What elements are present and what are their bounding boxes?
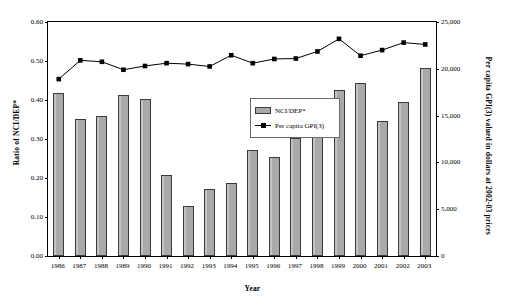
- line-marker: [337, 37, 342, 42]
- y-right-tickmark: [436, 162, 439, 163]
- plot-area: 0.000.100.200.300.400.500.60 05,00010,00…: [47, 21, 437, 257]
- line-square-swatch-icon: [255, 122, 271, 129]
- x-tickmark: [253, 256, 254, 259]
- y-left-tick-label: 0.20: [31, 174, 43, 182]
- line-marker: [186, 62, 191, 67]
- line-marker: [294, 56, 299, 61]
- y-right-tickmark: [436, 116, 439, 117]
- y-left-tick-label: 0.40: [31, 96, 43, 104]
- line-marker: [272, 57, 277, 62]
- x-tickmark: [274, 256, 275, 259]
- y-axis-right-title: Per capita GPI(3) valued in dollars at 2…: [484, 57, 493, 189]
- x-tickmark: [404, 256, 405, 259]
- y-right-tick-label: 15,000: [441, 112, 460, 120]
- x-tickmark: [382, 256, 383, 259]
- x-axis-title: Year: [0, 284, 505, 293]
- y-right-tickmark: [436, 22, 439, 23]
- x-tick-label: 2002: [396, 262, 410, 270]
- y-left-tickmark: [45, 256, 48, 257]
- y-left-tick-label: 0.50: [31, 57, 43, 65]
- x-tick-label: 1991: [159, 262, 173, 270]
- y-left-tick-label: 0.30: [31, 135, 43, 143]
- line-marker: [164, 61, 169, 66]
- y-right-tickmark: [436, 69, 439, 70]
- y-left-tick-label: 0.60: [31, 18, 43, 26]
- line-marker: [380, 48, 385, 53]
- x-tick-label: 1997: [288, 262, 302, 270]
- x-tickmark: [102, 256, 103, 259]
- y-right-tick-label: 0: [441, 252, 445, 260]
- y-right-tick-label: 20,000: [441, 65, 460, 73]
- line-marker: [315, 49, 320, 54]
- line-marker: [423, 42, 428, 47]
- x-tick-label: 1986: [51, 262, 65, 270]
- line-marker: [78, 58, 83, 63]
- x-tickmark: [123, 256, 124, 259]
- legend-item-bar: NCI/DEP*: [255, 103, 335, 118]
- x-tick-label: 1996: [266, 262, 280, 270]
- x-tickmark: [145, 256, 146, 259]
- line-marker: [401, 40, 406, 45]
- y-left-tick-label: 0.00: [31, 252, 43, 260]
- y-right-tick-label: 10,000: [441, 158, 460, 166]
- y-right-tick-label: 5,000: [441, 205, 457, 213]
- x-tick-label: 1988: [94, 262, 108, 270]
- x-tick-label: 1990: [137, 262, 151, 270]
- legend-item-line: Per capita GPI(3): [255, 118, 335, 133]
- line-marker: [207, 64, 212, 69]
- x-tickmark: [339, 256, 340, 259]
- x-tick-label: 1999: [331, 262, 345, 270]
- x-tick-label: 2003: [417, 262, 431, 270]
- legend-label-bar: NCI/DEP*: [275, 107, 306, 115]
- y-right-tickmark: [436, 209, 439, 210]
- y-left-tick-label: 0.10: [31, 213, 43, 221]
- x-tickmark: [317, 256, 318, 259]
- line-marker: [229, 53, 234, 58]
- y-axis-left-title: Ratio of NCI/DEP*: [12, 73, 21, 193]
- x-tick-label: 1992: [180, 262, 194, 270]
- chart-legend: NCI/DEP* Per capita GPI(3): [250, 98, 340, 138]
- x-tickmark: [210, 256, 211, 259]
- x-tickmark: [59, 256, 60, 259]
- x-tick-label: 2000: [353, 262, 367, 270]
- x-tick-label: 1989: [115, 262, 129, 270]
- x-tick-label: 1998: [309, 262, 323, 270]
- line-marker: [121, 67, 126, 72]
- x-tickmark: [296, 256, 297, 259]
- line-marker: [56, 77, 61, 82]
- x-tick-label: 1995: [245, 262, 259, 270]
- line-marker: [250, 61, 255, 66]
- x-tick-label: 2001: [374, 262, 388, 270]
- line-marker: [100, 59, 105, 64]
- chart-figure: Ratio of NCI/DEP* Per capita GPI(3) valu…: [0, 0, 505, 305]
- x-tickmark: [425, 256, 426, 259]
- x-tickmark: [167, 256, 168, 259]
- legend-label-line: Per capita GPI(3): [275, 122, 324, 130]
- x-tick-label: 1987: [72, 262, 86, 270]
- line-marker: [143, 64, 148, 69]
- x-tick-label: 1994: [223, 262, 237, 270]
- x-tick-label: 1993: [202, 262, 216, 270]
- y-right-tickmark: [436, 256, 439, 257]
- line-series: [48, 22, 436, 256]
- bar-swatch-icon: [255, 107, 271, 114]
- x-tickmark: [361, 256, 362, 259]
- x-tickmark: [188, 256, 189, 259]
- x-tickmark: [80, 256, 81, 259]
- line-path: [59, 39, 425, 79]
- y-right-tick-label: 25,000: [441, 18, 460, 26]
- x-tickmark: [231, 256, 232, 259]
- line-marker: [358, 53, 363, 58]
